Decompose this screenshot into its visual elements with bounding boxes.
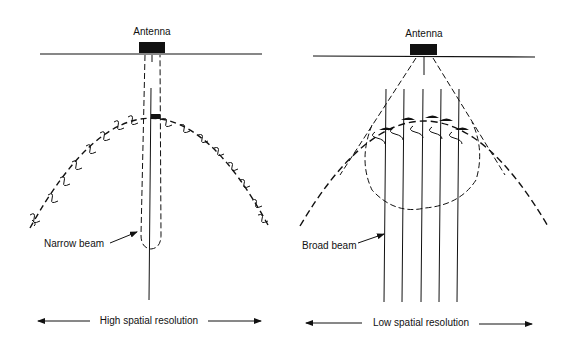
right-antenna-icon — [410, 44, 437, 55]
right-wavefront-curve — [300, 121, 549, 228]
broad-beam-label: Broad beam — [302, 240, 356, 251]
high-resolution-label: High spatial resolution — [100, 315, 198, 326]
right-panel: Antenna — [300, 28, 549, 328]
broad-beam-arrow — [358, 234, 384, 243]
wave-squiggles — [30, 116, 268, 226]
left-antenna-icon — [139, 42, 165, 53]
left-target-marker — [151, 114, 160, 119]
right-ground-line — [313, 56, 535, 57]
right-antenna-label: Antenna — [405, 28, 443, 39]
broad-beam-cone-right — [433, 58, 505, 175]
low-resolution-label: Low spatial resolution — [373, 317, 469, 328]
left-panel: Antenna Narrow — [30, 26, 268, 326]
right-scatterers — [372, 116, 469, 145]
left-wavefront-curve — [30, 118, 268, 228]
narrow-beam-arrow — [110, 232, 137, 243]
narrow-beam-label: Narrow beam — [44, 238, 104, 249]
diagram-canvas: Antenna Narrow — [0, 0, 572, 343]
narrow-beam-outline — [141, 55, 161, 249]
left-center-line — [149, 88, 151, 300]
left-antenna-label: Antenna — [133, 26, 171, 37]
broad-beam-cone-left — [340, 58, 416, 175]
